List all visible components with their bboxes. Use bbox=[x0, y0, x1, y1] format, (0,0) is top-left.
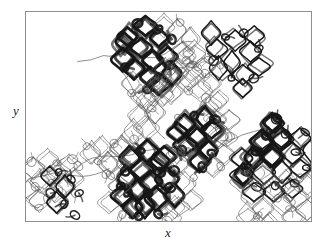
plot-frame bbox=[25, 11, 312, 222]
y-axis-label: y bbox=[13, 104, 19, 117]
lattice-configuration-plot bbox=[26, 12, 311, 221]
figure-container: y x bbox=[0, 0, 329, 247]
x-axis-label: x bbox=[165, 226, 171, 239]
